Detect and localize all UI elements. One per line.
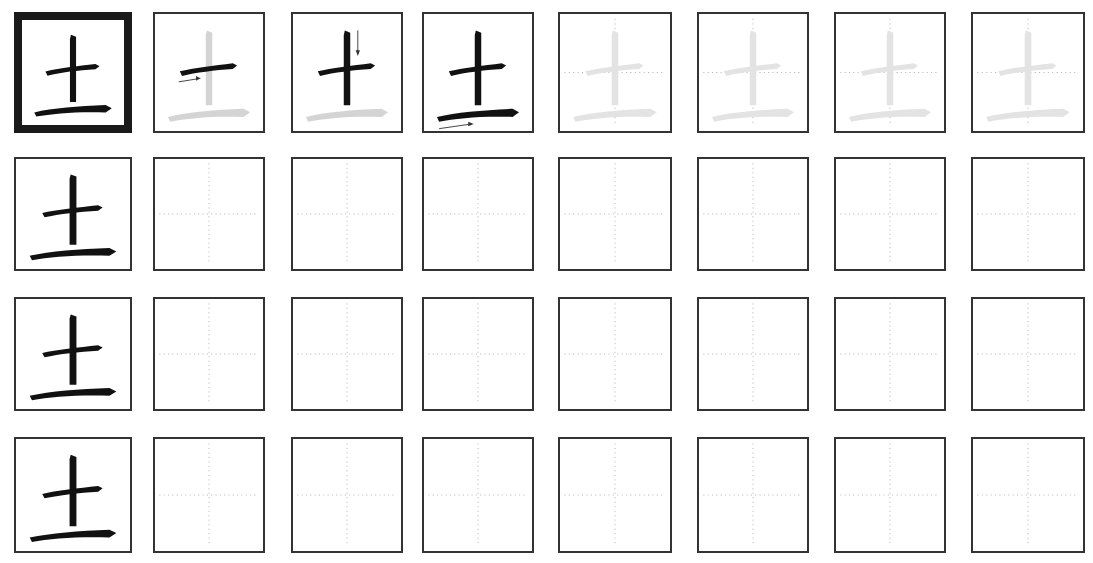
blank-practice-cell[interactable]: [291, 157, 403, 271]
arrow-down-icon: [356, 30, 360, 56]
character-glyph: [699, 299, 807, 409]
model-character-cell: [14, 297, 132, 411]
character-glyph: [836, 159, 944, 269]
blank-practice-cell[interactable]: [153, 437, 265, 553]
blank-practice-cell[interactable]: [697, 437, 809, 553]
character-glyph: [293, 439, 401, 551]
character-glyph: [22, 20, 124, 125]
trace-cell[interactable]: [697, 12, 809, 133]
stroke-order-step-1: [153, 12, 265, 133]
blank-practice-cell[interactable]: [834, 297, 946, 411]
character-glyph: [560, 159, 670, 269]
character-glyph: [424, 159, 532, 269]
blank-practice-cell[interactable]: [291, 437, 403, 553]
character-glyph: [155, 439, 263, 551]
character-glyph: [973, 439, 1083, 551]
blank-practice-cell[interactable]: [971, 157, 1085, 271]
character-glyph: [293, 14, 401, 131]
character-glyph: [155, 14, 263, 131]
character-glyph: [293, 159, 401, 269]
character-glyph: [155, 159, 263, 269]
character-glyph: [836, 14, 944, 131]
arrow-right-icon: [179, 76, 201, 82]
model-character-cell: [14, 157, 132, 271]
blank-practice-cell[interactable]: [558, 157, 672, 271]
trace-cell[interactable]: [834, 12, 946, 133]
blank-practice-cell[interactable]: [153, 297, 265, 411]
blank-practice-cell[interactable]: [697, 157, 809, 271]
blank-practice-cell[interactable]: [153, 157, 265, 271]
character-glyph: [836, 439, 944, 551]
stroke-order-step-3: [422, 12, 534, 133]
blank-practice-cell[interactable]: [697, 297, 809, 411]
character-glyph: [973, 14, 1083, 131]
blank-practice-cell[interactable]: [971, 437, 1085, 553]
blank-practice-cell[interactable]: [291, 297, 403, 411]
blank-practice-cell[interactable]: [971, 297, 1085, 411]
character-glyph: [424, 439, 532, 551]
character-glyph: [699, 159, 807, 269]
trace-cell[interactable]: [971, 12, 1085, 133]
character-glyph: [155, 299, 263, 409]
blank-practice-cell[interactable]: [422, 437, 534, 553]
character-glyph: [16, 159, 130, 269]
blank-practice-cell[interactable]: [558, 297, 672, 411]
model-character-cell: [14, 437, 132, 553]
character-glyph: [836, 299, 944, 409]
stroke-order-step-2: [291, 12, 403, 133]
character-glyph: [16, 299, 130, 409]
blank-practice-cell[interactable]: [422, 297, 534, 411]
blank-practice-cell[interactable]: [558, 437, 672, 553]
blank-practice-cell[interactable]: [422, 157, 534, 271]
trace-cell[interactable]: [558, 12, 672, 133]
character-glyph: [424, 14, 532, 131]
character-glyph: [560, 14, 670, 131]
arrow-right-icon: [439, 122, 474, 129]
model-character-cell: [14, 12, 132, 133]
blank-practice-cell[interactable]: [834, 157, 946, 271]
character-glyph: [973, 299, 1083, 409]
blank-practice-cell[interactable]: [834, 437, 946, 553]
character-glyph: [16, 439, 130, 551]
character-glyph: [560, 439, 670, 551]
character-glyph: [699, 439, 807, 551]
character-glyph: [293, 299, 401, 409]
character-glyph: [560, 299, 670, 409]
character-glyph: [424, 299, 532, 409]
character-glyph: [973, 159, 1083, 269]
practice-grid: [0, 0, 1093, 563]
character-glyph: [699, 14, 807, 131]
